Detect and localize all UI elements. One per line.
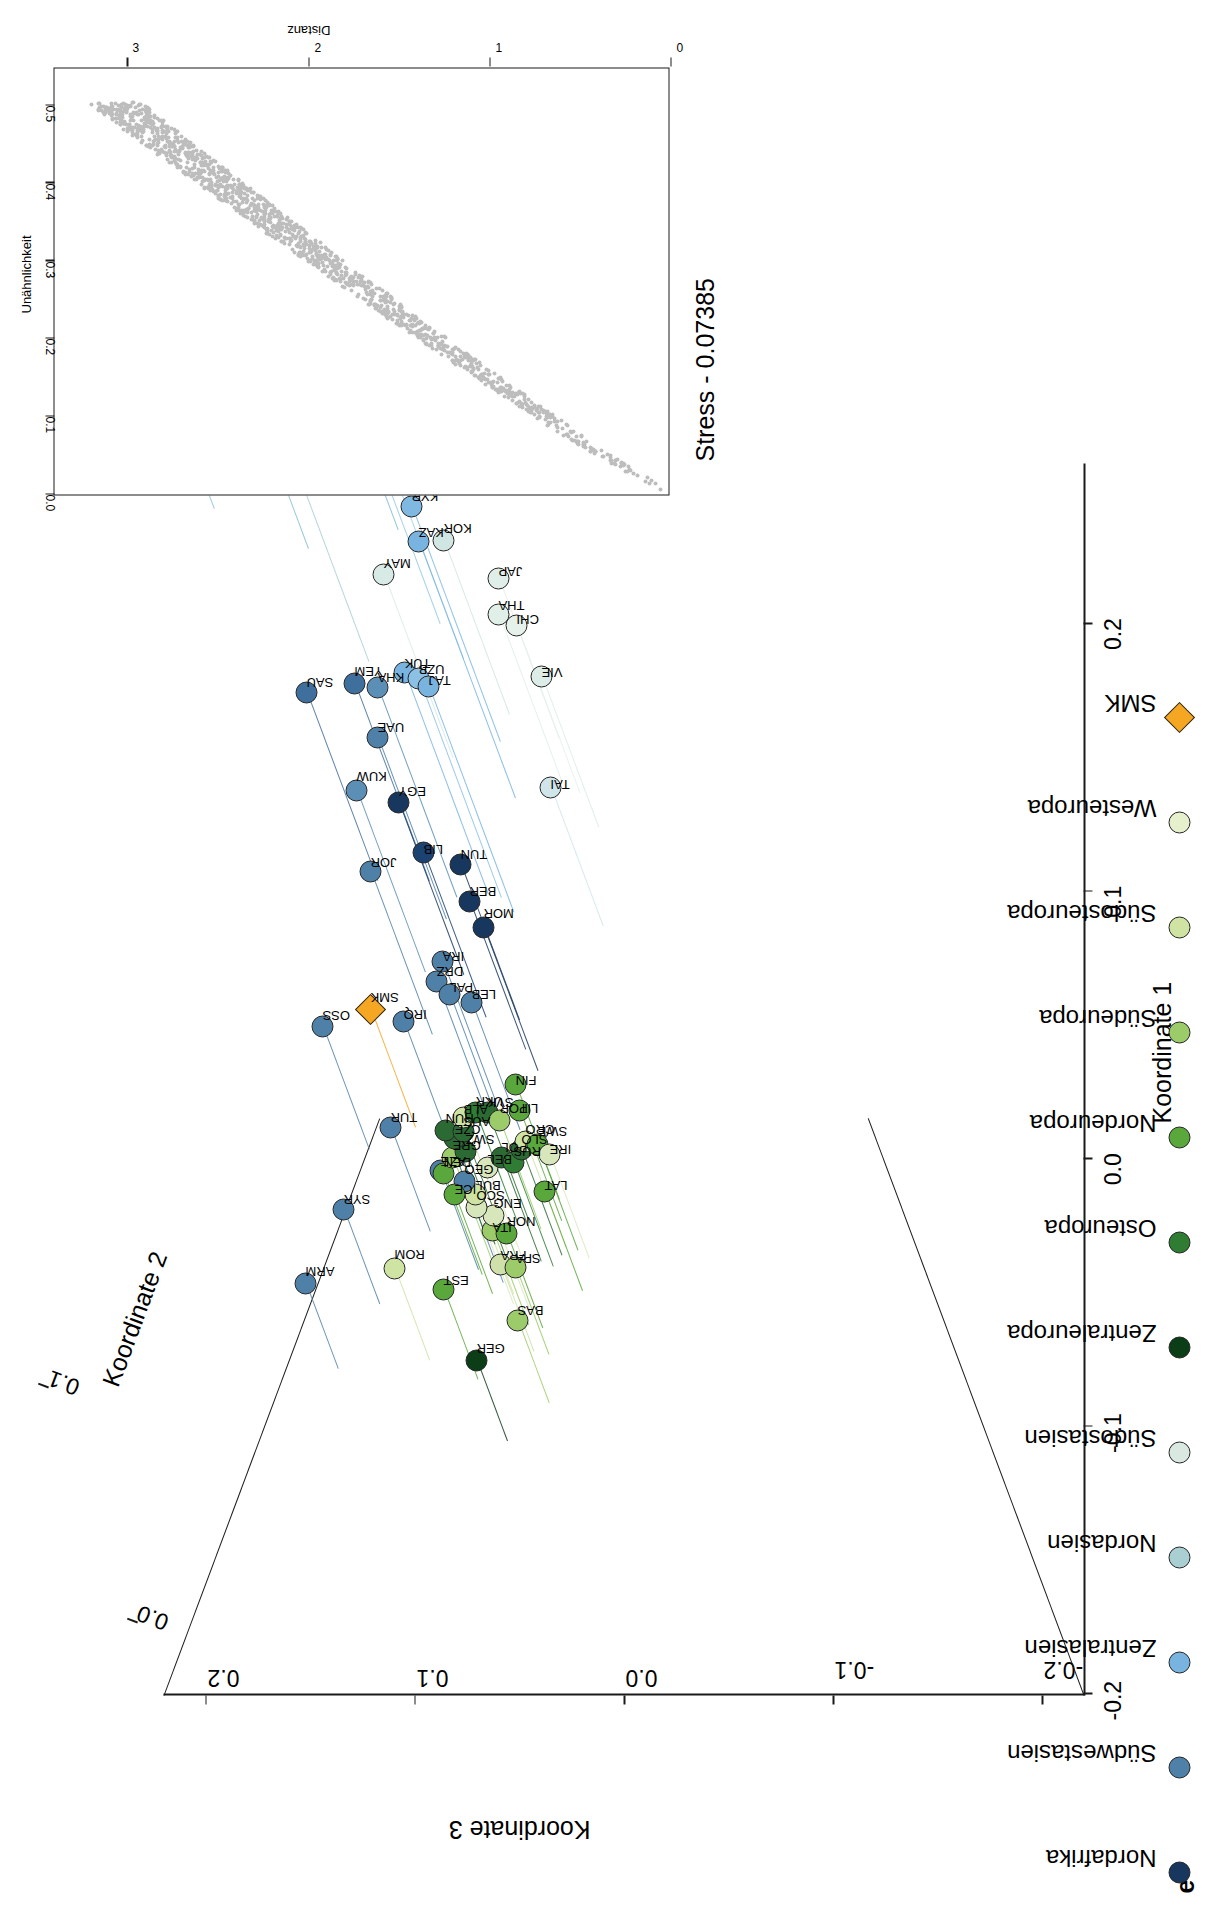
inset-point: [328, 270, 332, 274]
data-point-label: ARM: [305, 1263, 334, 1278]
inset-point: [244, 186, 248, 190]
inset-point: [104, 105, 108, 109]
inset-point: [385, 304, 389, 308]
inset-point: [302, 246, 306, 250]
inset-point: [319, 256, 323, 260]
y-tick: [1041, 1695, 1043, 1704]
inset-point: [368, 280, 372, 284]
legend-swatch-südeuropa: [1168, 1021, 1190, 1043]
inset-point: [287, 219, 291, 223]
data-point-label: MAY: [383, 555, 410, 570]
inset-point: [314, 251, 318, 255]
inset-x-tick-label: 0.0: [42, 494, 56, 511]
data-point-label: JAP: [498, 564, 522, 579]
inset-point: [440, 339, 444, 343]
inset-point: [199, 149, 203, 153]
inset-point: [522, 394, 526, 398]
inset-point: [121, 127, 125, 131]
data-point-label: IRQ: [403, 1006, 426, 1021]
legend-swatch-smk: [1163, 701, 1194, 732]
inset-point: [109, 101, 113, 105]
inset-x-tick-label: 0.2: [42, 338, 56, 355]
inset-point: [294, 234, 298, 238]
inset-point: [445, 350, 449, 354]
data-point-label: VIE: [541, 664, 562, 679]
legend-swatch-südwestasien: [1168, 1756, 1190, 1778]
data-point-label: SAU: [306, 674, 333, 689]
inset-point: [173, 131, 177, 135]
inset-point: [323, 269, 327, 273]
inset-point: [193, 155, 197, 159]
inset-point: [593, 449, 597, 453]
data-point-label: TUN: [460, 846, 487, 861]
inset-point: [366, 302, 370, 306]
inset-point: [202, 178, 206, 182]
inset-point: [178, 164, 182, 168]
inset-point: [599, 448, 603, 452]
inset-point: [372, 292, 376, 296]
inset-point: [257, 218, 261, 222]
inset-y-axis-title: Distanz: [287, 22, 330, 37]
inset-point: [234, 199, 238, 203]
inset-point: [96, 108, 100, 112]
data-point-label: NOR: [506, 1213, 535, 1228]
inset-point: [150, 143, 154, 147]
inset-point: [275, 213, 279, 217]
data-point-label: BAS: [517, 1303, 543, 1318]
point-stem: [377, 736, 446, 918]
inset-point: [516, 390, 520, 394]
inset-point: [120, 112, 124, 116]
inset-point: [301, 233, 305, 237]
y-tick: [623, 1695, 625, 1704]
data-point-label: LEB: [471, 987, 496, 1002]
inset-point: [138, 102, 142, 106]
data-point-label: ICE: [454, 1181, 476, 1196]
inset-x-tick-label: 0.5: [42, 105, 56, 122]
legend-label-zentraleuropa: Zentraleuropa: [1007, 1318, 1156, 1346]
inset-point: [89, 102, 93, 106]
inset-point: [164, 125, 168, 129]
rotated-figure-canvas: e -0.2-0.10.00.10.2 Koordinate 1 -0.2-0.…: [0, 0, 1226, 1913]
inset-point: [218, 182, 222, 186]
inset-point: [176, 140, 180, 144]
inset-point: [199, 182, 203, 186]
legend: NordafrikaSüdwestasienZentralasienNordas…: [1128, 623, 1208, 1883]
inset-point: [379, 303, 383, 307]
inset-point: [478, 373, 482, 377]
inset-x-tick-label: 0.4: [42, 183, 56, 200]
inset-point: [404, 312, 408, 316]
inset-point: [574, 434, 578, 438]
inset-point: [349, 282, 353, 286]
inset-point: [167, 148, 171, 152]
inset-point: [236, 178, 240, 182]
inset-point: [405, 326, 409, 330]
inset-point: [391, 302, 395, 306]
inset-x-axis-title: Unähnlichkeit: [18, 235, 33, 313]
inset-point: [555, 429, 559, 433]
point-stem: [394, 1267, 430, 1359]
legend-label-zentralasien: Zentralasien: [1024, 1633, 1156, 1661]
stress-inset-plot: 0.00.10.20.30.40.5 0123: [53, 67, 669, 495]
inset-point: [162, 144, 166, 148]
inset-point: [138, 128, 142, 132]
data-point-label: DRZ: [436, 964, 463, 979]
data-point-label: KAZ: [418, 525, 443, 540]
inset-point: [145, 120, 149, 124]
inset-point: [235, 206, 239, 210]
inset-point: [588, 449, 592, 453]
inset-point: [547, 412, 551, 416]
y-tick: [414, 1695, 416, 1704]
legend-swatch-zentraleuropa: [1168, 1336, 1190, 1358]
inset-point: [207, 155, 211, 159]
inset-point: [319, 245, 323, 249]
inset-y-tick: [489, 57, 490, 66]
x-axis-line: [1083, 463, 1085, 1695]
inset-point: [343, 270, 347, 274]
data-point-label: IRA: [442, 948, 464, 963]
inset-point: [174, 162, 178, 166]
inset-point: [164, 153, 168, 157]
inset-point: [150, 127, 154, 131]
inset-point: [251, 190, 255, 194]
inset-point: [490, 385, 494, 389]
inset-point: [399, 305, 403, 309]
